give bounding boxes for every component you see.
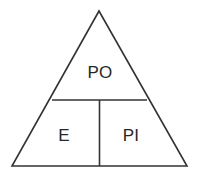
region-label-po: PO xyxy=(88,63,113,82)
region-label-e: E xyxy=(58,126,70,145)
triangle-diagram: PO E PI xyxy=(0,0,199,176)
region-label-pi: PI xyxy=(123,126,139,145)
triangle-diagram-canvas: PO E PI xyxy=(0,0,199,176)
